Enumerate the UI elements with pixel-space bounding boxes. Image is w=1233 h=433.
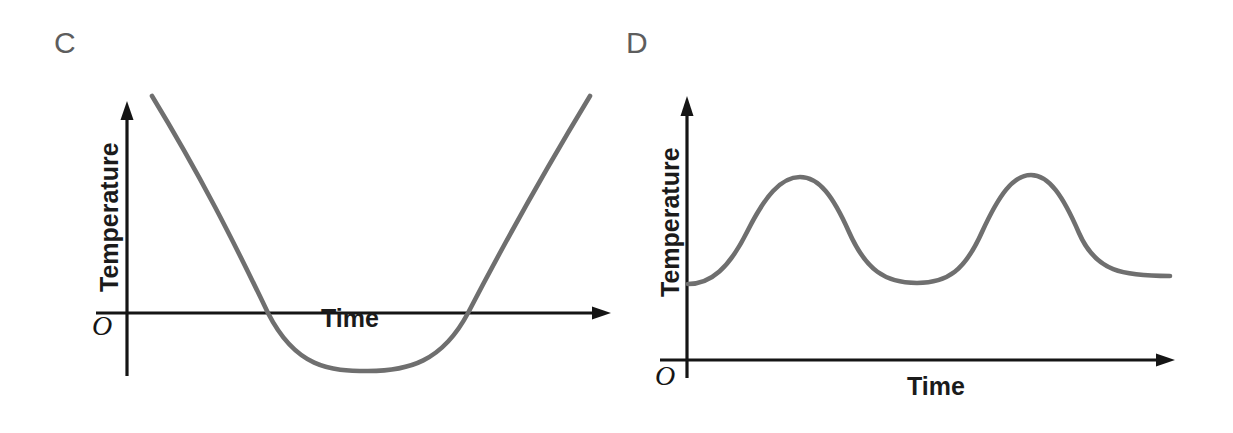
origin-label-d: O [655, 362, 675, 390]
y-axis-arrowhead-d [681, 96, 694, 116]
y-axis-label-d: Temperature [658, 147, 683, 297]
panel-d: D Temperature Time O [613, 0, 1233, 433]
panel-c: C Temperature Time O [0, 0, 620, 433]
x-axis-label-d: Time [907, 374, 965, 399]
x-axis-d [660, 354, 1175, 367]
y-axis-arrowhead-c [121, 101, 134, 120]
origin-label-c: O [92, 312, 112, 340]
temperature-curve-d [688, 175, 1170, 284]
x-axis-arrowhead-c [592, 307, 611, 320]
plot-c [0, 0, 620, 433]
plot-d [613, 0, 1233, 433]
x-axis-label-c: Time [321, 306, 379, 331]
y-axis-label-c: Temperature [97, 142, 122, 292]
figure-container: C Temperature Time O D [0, 0, 1233, 433]
x-axis-arrowhead-d [1156, 354, 1175, 367]
